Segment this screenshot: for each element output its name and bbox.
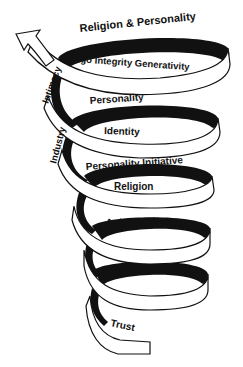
arrow-head-icon bbox=[16, 30, 54, 66]
label-coil5-religion: Religion bbox=[108, 261, 148, 274]
label-religion-personality: Religion & Personality bbox=[79, 10, 197, 34]
label-identity: Identity bbox=[104, 125, 140, 137]
label-coil3-religion: Religion bbox=[114, 181, 153, 192]
spiral-diagram: Religion & Personality Ego Integrity Gen… bbox=[0, 0, 243, 367]
spiral-graphic: Religion & Personality Ego Integrity Gen… bbox=[0, 0, 243, 367]
label-ego-integrity-generativity: Ego Integrity Generativity bbox=[74, 53, 191, 72]
label-trust: Trust bbox=[110, 317, 137, 333]
label-coil2-personality: Personality bbox=[89, 91, 144, 106]
